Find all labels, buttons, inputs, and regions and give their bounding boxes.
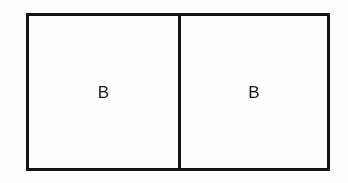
outer-rectangle: B B	[26, 13, 330, 171]
cell-row: B B	[29, 16, 327, 168]
cell-left-label: B	[98, 84, 110, 101]
figure-canvas: B B	[0, 0, 348, 183]
cell-right: B	[178, 16, 327, 168]
cell-right-label: B	[248, 84, 260, 101]
cell-left: B	[29, 16, 178, 168]
